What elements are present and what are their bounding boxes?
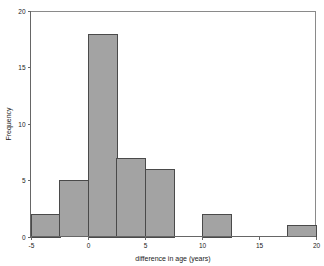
y-tick-label: 5 [22,177,26,184]
histogram-bar [288,226,317,237]
y-tick-label: 10 [18,121,26,128]
x-tick-label: 5 [144,242,148,249]
x-tick-label: 10 [199,242,207,249]
histogram-bar [89,35,118,238]
histogram-bar [60,181,89,237]
y-axis-ticks: 05101520 [18,8,30,241]
x-axis-title: difference in age (years) [135,255,210,263]
x-tick-label: -5 [29,242,35,249]
y-tick-label: 0 [22,234,26,241]
y-axis-title: Frequency [5,107,13,141]
x-axis-ticks: -505101520 [29,237,321,249]
histogram-bar [146,170,175,238]
histogram-bar [32,215,61,238]
histogram-bar [203,215,232,238]
y-tick-label: 15 [18,64,26,71]
x-tick-label: 0 [87,242,91,249]
histogram-figure: -505101520 05101520 difference in age (y… [0,0,324,266]
histogram-bar [117,159,146,238]
histogram-plot: -505101520 05101520 difference in age (y… [0,0,324,266]
y-tick-label: 20 [18,8,26,15]
x-tick-label: 20 [313,242,321,249]
x-tick-label: 15 [256,242,264,249]
